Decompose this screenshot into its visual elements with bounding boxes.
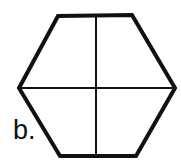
figure-label: b. xyxy=(13,117,36,144)
diagram-canvas: b. xyxy=(0,0,181,164)
